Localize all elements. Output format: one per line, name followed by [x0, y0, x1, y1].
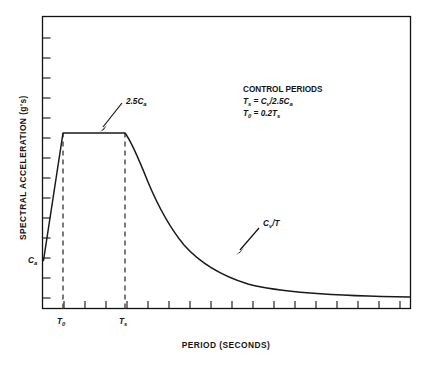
decay-label: Cv/T [263, 219, 280, 229]
ts-formula-eq: = [251, 97, 260, 106]
x-axis-title: PERIOD (SECONDS) [182, 340, 271, 350]
y-intercept-label: Ca [28, 256, 38, 266]
decay-tail: /T [271, 219, 280, 228]
ts-sub: s [124, 321, 128, 327]
x-tick-label-ts: Ts [119, 317, 128, 327]
response-spectrum-figure: SPECTRAL ACCELERATION (g's) PERIOD (SECO… [0, 0, 426, 365]
t0-formula-rest: 0.2T [261, 109, 278, 118]
t0-sub: 0 [62, 321, 66, 327]
x-tick-label-t0: T0 [57, 317, 66, 327]
y-axis-title: SPECTRAL ACCELERATION (g's) [18, 95, 28, 240]
t0-formula-eq: = [251, 109, 260, 118]
control-periods-heading: CONTROL PERIODS [243, 85, 323, 94]
plot-frame [43, 17, 411, 309]
ts-formula-rest: /2.5C [269, 97, 291, 106]
y-intercept-sub: a [34, 260, 38, 266]
chart-canvas: SPECTRAL ACCELERATION (g's) PERIOD (SECO… [0, 0, 426, 365]
plateau-base: 2.5C [125, 97, 144, 106]
